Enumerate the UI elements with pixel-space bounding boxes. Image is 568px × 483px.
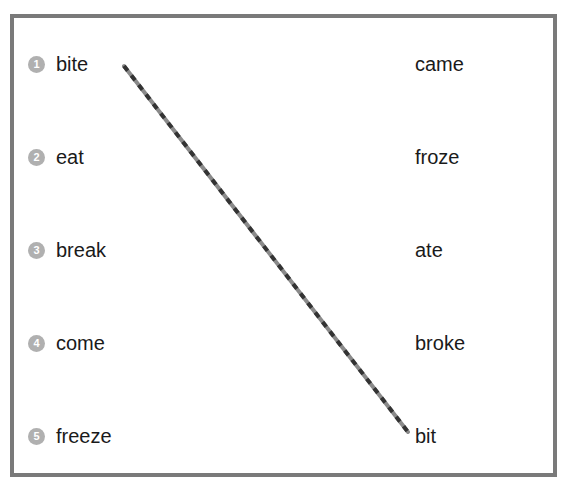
match-connection-line[interactable] bbox=[0, 0, 568, 483]
